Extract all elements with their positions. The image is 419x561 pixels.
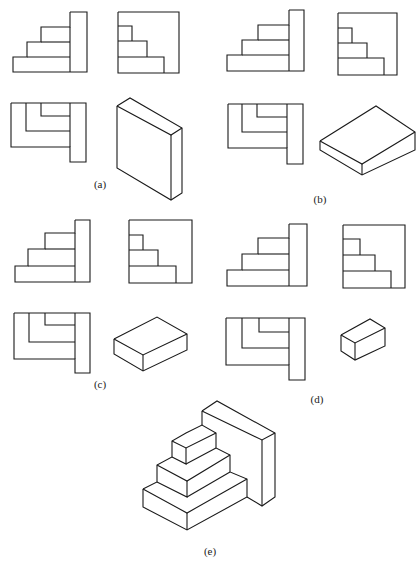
edge-line — [187, 472, 230, 497]
edge-line — [172, 433, 216, 448]
edge-line — [242, 318, 289, 348]
edge-line — [129, 266, 176, 283]
edge-line — [259, 318, 289, 332]
edge-line — [338, 28, 352, 43]
edge-line — [320, 132, 415, 164]
view-iso-a — [117, 98, 182, 200]
edge-line — [14, 313, 90, 373]
edge-line — [338, 58, 384, 75]
panel-c — [14, 220, 192, 373]
edge-line — [15, 220, 90, 282]
panel-label-d: (d) — [311, 393, 324, 405]
edge-line — [226, 318, 305, 380]
view-side-c — [129, 220, 192, 283]
view-front-a — [13, 12, 87, 72]
edge-line — [257, 104, 287, 117]
edge-line — [129, 250, 158, 266]
panel-label-e: (e) — [204, 545, 216, 557]
edge-line — [129, 235, 143, 250]
panel-label-b: (b) — [314, 193, 327, 205]
edge-line — [202, 411, 275, 440]
edge-line — [227, 224, 307, 286]
view-side-a — [118, 12, 179, 73]
edge-line — [343, 225, 405, 288]
panel-e — [143, 401, 275, 530]
panel-label-c: (c) — [94, 378, 106, 390]
edge-line — [343, 255, 375, 271]
drawing-canvas — [0, 0, 419, 561]
view-side-d — [343, 225, 405, 288]
view-iso-d — [341, 319, 385, 360]
edge-line — [341, 328, 385, 343]
view-top-a — [11, 103, 86, 162]
edge-line — [26, 103, 70, 131]
edge-line — [118, 26, 132, 41]
three-view-drawing-figure — [0, 0, 419, 561]
panel-d — [226, 224, 405, 380]
edge-line — [117, 98, 182, 200]
edge-line — [343, 271, 391, 288]
view-front-c — [15, 220, 90, 282]
edge-line — [29, 313, 75, 342]
edge-line — [117, 106, 182, 135]
edge-line — [242, 104, 287, 132]
edge-line — [338, 43, 367, 58]
edge-line — [172, 448, 186, 464]
edge-line — [118, 41, 147, 57]
view-front-b — [227, 10, 304, 71]
view-front-d — [227, 224, 307, 286]
edge-line — [186, 448, 216, 464]
edge-line — [41, 103, 70, 116]
edge-line — [11, 103, 86, 162]
edge-line — [45, 313, 75, 325]
edge-line — [143, 479, 247, 513]
view-top-c — [14, 313, 90, 373]
edge-line — [157, 481, 187, 497]
panel-label-a: (a) — [94, 178, 106, 190]
view-iso-c — [114, 317, 187, 371]
view-iso-b — [320, 106, 415, 175]
edge-line — [118, 12, 179, 73]
edge-line — [343, 239, 360, 255]
view-iso-e — [143, 401, 275, 530]
edge-line — [114, 317, 187, 371]
edge-line — [143, 425, 247, 530]
panel-a — [11, 12, 182, 200]
edge-line — [129, 220, 192, 283]
edge-line — [118, 57, 164, 73]
edge-line — [114, 334, 187, 355]
edge-line — [228, 104, 303, 164]
view-side-b — [338, 13, 397, 75]
view-top-b — [228, 104, 303, 164]
panel-b — [227, 10, 415, 175]
view-top-d — [226, 318, 305, 380]
